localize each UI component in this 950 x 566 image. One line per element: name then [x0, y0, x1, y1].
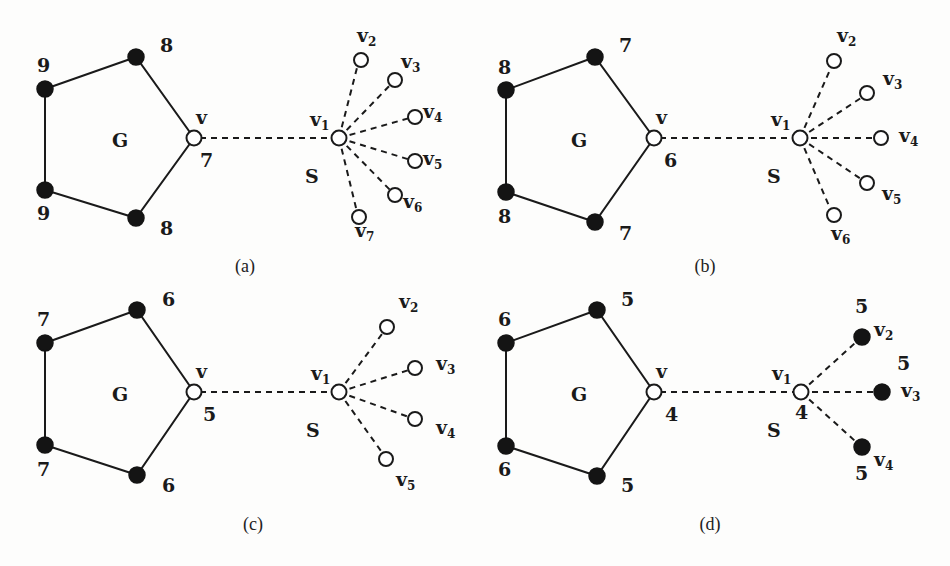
vertex-label-v: v — [195, 106, 208, 128]
vertex-label-v: v — [655, 106, 668, 128]
vertex-value-v: 6 — [664, 149, 677, 171]
cycle-node — [129, 467, 145, 483]
star-edge — [339, 370, 409, 392]
panel-caption: (b) — [695, 256, 716, 277]
panel-b: 7 8 8 7 G v 6 v1 S v2 v3 v4 v5 v6 (b) — [498, 24, 918, 277]
leaf-node — [388, 188, 402, 202]
node-v — [187, 385, 202, 400]
leaf-node — [827, 54, 841, 68]
degree-label: 8 — [498, 205, 511, 227]
cycle-node — [129, 302, 145, 318]
star-edge — [339, 80, 395, 138]
vertex-value-v: 7 — [200, 149, 213, 171]
node-v1 — [332, 385, 347, 400]
leaf-label: v4 — [898, 124, 918, 149]
figure-canvas: 8 9 9 8 G v 7 v1 S v2 v3 v4 v5 v6 v7 (a) — [0, 0, 950, 566]
cycle-node — [587, 49, 603, 65]
vertex-label-v: v — [655, 360, 668, 382]
leaf-node — [860, 176, 874, 190]
cycle-node — [37, 437, 53, 453]
cycle-node — [37, 335, 53, 351]
cycle-node — [37, 182, 53, 198]
star-label-S: S — [767, 165, 781, 187]
vertex-label-v1: v1 — [771, 362, 791, 387]
star-label-S: S — [306, 419, 320, 441]
star-label-S: S — [767, 419, 781, 441]
leaf-node — [379, 452, 393, 466]
panel-caption: (d) — [700, 514, 721, 535]
node-v — [647, 385, 662, 400]
star-edge — [339, 392, 409, 417]
graph-label-G: G — [571, 383, 587, 405]
degree-label: 5 — [621, 474, 634, 496]
vertex-value-v: 4 — [665, 403, 678, 425]
graph-label-G: G — [112, 129, 128, 151]
leaf-label: v2 — [398, 290, 418, 315]
cycle-node — [128, 210, 144, 226]
panel-caption: (c) — [243, 514, 263, 535]
star-edge — [801, 392, 855, 441]
degree-label: 7 — [37, 308, 50, 330]
vertex-label-v1: v1 — [309, 108, 329, 133]
leaf-node — [380, 320, 394, 334]
leaf-node-filled — [854, 439, 870, 455]
leaf-label: v5 — [422, 147, 442, 172]
cycle-node — [589, 302, 605, 318]
leaf-label: v4 — [435, 416, 455, 441]
node-v1 — [332, 131, 347, 146]
cycle-node — [498, 82, 514, 98]
leaf-node — [408, 412, 422, 426]
cycle-node — [128, 49, 144, 65]
degree-label: 6 — [498, 458, 511, 480]
star-edge — [800, 138, 832, 213]
leaf-label: v4 — [873, 448, 893, 473]
star-edge — [339, 138, 394, 194]
cycle-node — [498, 184, 514, 200]
leaf-node-filled — [874, 384, 890, 400]
panel-c: 6 7 7 6 G v 5 v1 S v2 v3 v4 v5 (c) — [37, 288, 455, 535]
leaf-label: v5 — [395, 468, 415, 493]
star-edge — [339, 138, 358, 216]
leaf-node — [408, 154, 422, 168]
star-label-S: S — [305, 165, 319, 187]
cycle-node — [498, 438, 514, 454]
degree-label: 5 — [621, 288, 634, 310]
degree-label: 8 — [160, 217, 173, 239]
degree-label: 6 — [162, 474, 175, 496]
node-v — [647, 131, 662, 146]
node-v1 — [793, 131, 808, 146]
leaf-node — [408, 110, 422, 124]
cycle-node — [498, 335, 514, 351]
star-edge — [339, 392, 381, 451]
leaf-value: 5 — [855, 295, 868, 317]
leaf-node — [408, 361, 422, 375]
degree-label: 9 — [37, 54, 50, 76]
leaf-node — [354, 53, 368, 67]
degree-label: 8 — [160, 34, 173, 56]
leaf-node — [388, 73, 402, 87]
star-edge — [339, 334, 382, 392]
leaf-label: v2 — [873, 318, 893, 343]
leaf-label: v3 — [882, 67, 902, 92]
leaf-label: v7 — [354, 219, 374, 244]
panel-a: 8 9 9 8 G v 7 v1 S v2 v3 v4 v5 v6 v7 (a) — [37, 24, 442, 277]
degree-label: 7 — [619, 222, 632, 244]
leaf-label: v3 — [400, 50, 420, 75]
leaf-label: v3 — [435, 352, 455, 377]
panel-caption: (a) — [235, 256, 255, 277]
degree-label: 7 — [37, 458, 50, 480]
leaf-value: 5 — [855, 462, 868, 484]
vertex-label-v: v — [195, 360, 208, 382]
cycle-node — [589, 468, 605, 484]
node-v — [187, 131, 202, 146]
panel-d: 5 6 6 5 G v 4 v1 4 S 5 v2 5 v3 v4 5 (d) — [498, 288, 920, 535]
vertex-label-v1: v1 — [770, 108, 790, 133]
leaf-node — [860, 86, 874, 100]
leaf-label: v5 — [881, 182, 901, 207]
star-edge — [800, 63, 833, 138]
node-v1 — [794, 385, 809, 400]
leaf-node-filled — [854, 329, 870, 345]
leaf-label: v3 — [900, 379, 920, 404]
vertex-value-v1: 4 — [795, 401, 808, 423]
degree-label: 8 — [498, 56, 511, 78]
